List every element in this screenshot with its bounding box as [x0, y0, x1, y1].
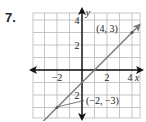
x-tick-label: 2 [105, 72, 110, 83]
labels: −224x422y(4, 3)(−2, −3) [52, 7, 140, 107]
x-axis-label: x [134, 72, 140, 83]
x-tick-label: −2 [52, 72, 63, 83]
data-point [130, 31, 133, 34]
y-tick-label: 2 [75, 90, 80, 101]
line-lower-ray [37, 108, 57, 122]
y-tick-label: 2 [75, 40, 80, 51]
x-tick-label: 4 [128, 72, 133, 83]
point-label-lower: (−2, −3) [86, 95, 119, 107]
coordinate-graph: −224x422y(4, 3)(−2, −3) [0, 0, 146, 121]
point-label-upper: (4, 3) [96, 23, 118, 35]
data-point [55, 106, 58, 109]
y-axis-label: y [85, 7, 91, 18]
y-tick-label: 4 [75, 15, 80, 26]
